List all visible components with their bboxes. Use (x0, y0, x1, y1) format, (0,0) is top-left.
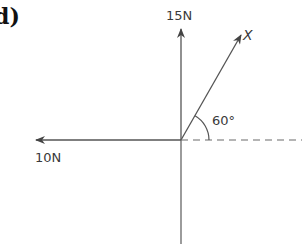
label-10n: 10N (35, 150, 61, 165)
label-15n: 15N (166, 8, 192, 23)
label-x: X (242, 27, 253, 43)
angle-arc (195, 116, 209, 140)
part-label: d) (0, 3, 20, 29)
force-diagram: d) 15N 10N X 60° (0, 0, 302, 247)
angle-label: 60° (212, 113, 235, 128)
